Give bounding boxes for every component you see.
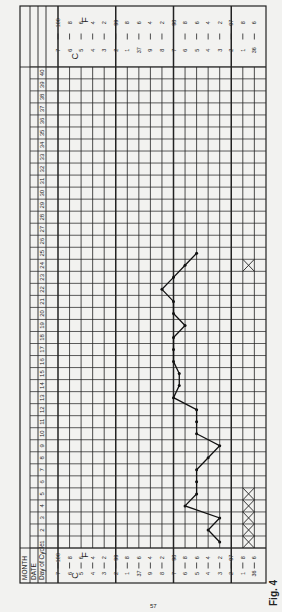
day-number: 20 [39, 309, 45, 316]
day-number: 36 [39, 117, 45, 124]
celsius-tick: 2 [113, 49, 119, 52]
cross-marker [243, 488, 255, 500]
fahrenheit-tick: 4 [147, 21, 153, 24]
data-point [195, 408, 198, 411]
celsius-tick: 1 [240, 49, 246, 52]
day-number: 18 [39, 333, 45, 340]
celsius-tick: 7 [55, 49, 61, 52]
day-number: 34 [39, 141, 45, 148]
fahrenheit-tick: 2 [159, 21, 165, 24]
data-point [218, 444, 221, 447]
fahrenheit-tick: 4 [90, 556, 96, 559]
cross-marker [243, 259, 255, 271]
fahrenheit-tick: 8 [182, 21, 188, 24]
data-point [195, 432, 198, 435]
day-number: 26 [39, 237, 45, 244]
data-point [172, 396, 175, 399]
celsius-tick: 1 [240, 572, 246, 575]
data-point [178, 372, 181, 375]
day-number: 13 [39, 394, 45, 401]
celsius-unit: C [70, 52, 80, 59]
fahrenheit-tick: 97 [228, 20, 234, 26]
fahrenheit-tick: 6 [194, 21, 200, 24]
celsius-tick: 6 [67, 49, 73, 52]
temperature-line [162, 253, 220, 542]
fahrenheit-tick: 8 [124, 556, 130, 559]
day-number: 6 [39, 480, 45, 484]
celsius-tick: 4 [205, 572, 211, 575]
day-number: 22 [39, 285, 45, 292]
day-number: 32 [39, 165, 45, 172]
day-number: 40 [39, 69, 45, 76]
day-number: 16 [39, 358, 45, 365]
bbt-chart: 1234567891011121314151617181920212223242… [0, 0, 282, 612]
fahrenheit-tick: 4 [205, 21, 211, 24]
fahrenheit-tick: 2 [217, 556, 223, 559]
celsius-tick: 8 [159, 49, 165, 52]
cross-marker [243, 536, 255, 548]
day-number: 5 [39, 492, 45, 496]
temperature-scale-top: 1007866544239928163749289878665442397281… [55, 17, 257, 60]
fahrenheit-tick: 8 [240, 556, 246, 559]
figure-label: Fig. 4 [268, 579, 279, 606]
celsius-tick: 3 [217, 49, 223, 52]
fahrenheit-tick: 99 [113, 555, 119, 561]
celsius-tick: 2 [228, 49, 234, 52]
day-number: 9 [39, 443, 45, 447]
day-number: 35 [39, 129, 45, 136]
fahrenheit-tick: 6 [251, 21, 257, 24]
day-number: 24 [39, 261, 45, 268]
celsius-tick: 7 [171, 49, 177, 52]
celsius-tick: 4 [90, 572, 96, 575]
day-number: 23 [39, 273, 45, 280]
day-number: 3 [39, 516, 45, 520]
day-number: 15 [39, 370, 45, 377]
chart-frame [20, 6, 266, 583]
fahrenheit-tick: 2 [101, 21, 107, 24]
data-point [184, 504, 187, 507]
cross-marker [243, 524, 255, 536]
cross-marker [243, 512, 255, 524]
celsius-tick: 4 [205, 49, 211, 52]
celsius-tick: 8 [159, 572, 165, 575]
grid [30, 6, 266, 583]
data-point [195, 252, 198, 255]
celsius-unit: C [70, 572, 80, 579]
fahrenheit-tick: 4 [205, 556, 211, 559]
day-number: 31 [39, 177, 45, 184]
data-point [195, 420, 198, 423]
celsius-tick: 7 [55, 572, 61, 575]
celsius-tick: 3 [101, 572, 107, 575]
day-number: 17 [39, 346, 45, 353]
celsius-tick: 9 [147, 572, 153, 575]
data-point [184, 324, 187, 327]
day-number: 27 [39, 225, 45, 232]
fahrenheit-tick: 4 [90, 21, 96, 24]
day-number: 28 [39, 213, 45, 220]
day-number: 12 [39, 406, 45, 413]
data-point [218, 541, 221, 544]
celsius-tick: 1 [124, 572, 130, 575]
celsius-tick: 36 [251, 47, 257, 53]
fahrenheit-tick: 2 [159, 556, 165, 559]
date-label: DATE [30, 562, 37, 580]
day-number: 14 [39, 382, 45, 389]
day-number: 10 [39, 430, 45, 437]
data-point [160, 288, 163, 291]
fahrenheit-tick: 4 [147, 556, 153, 559]
day-number: 1 [39, 540, 45, 544]
fahrenheit-tick: 8 [67, 556, 73, 559]
data-point [195, 492, 198, 495]
fahrenheit-tick: 99 [113, 20, 119, 26]
celsius-tick: 36 [251, 570, 257, 576]
fahrenheit-unit: F [80, 17, 90, 23]
data-point [195, 480, 198, 483]
fahrenheit-tick: 100 [55, 18, 61, 27]
fahrenheit-tick: 98 [171, 555, 177, 561]
data-point [172, 276, 175, 279]
day-of-cycle-numbers: 1234567891011121314151617181920212223242… [39, 69, 45, 544]
page-number: 57 [150, 603, 157, 609]
data-point [172, 348, 175, 351]
fahrenheit-tick: 8 [182, 556, 188, 559]
cross-marker [243, 500, 255, 512]
